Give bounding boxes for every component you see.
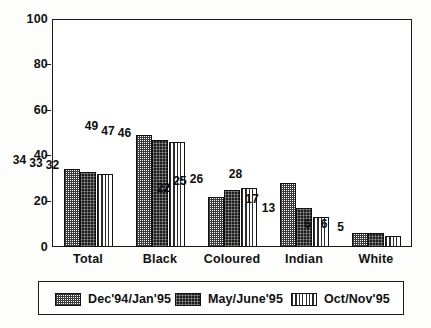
y-axis-tick-label: 100 bbox=[8, 13, 48, 26]
bar bbox=[280, 183, 296, 247]
bar bbox=[352, 233, 368, 247]
bar-group bbox=[280, 19, 329, 247]
legend-swatch bbox=[55, 293, 81, 306]
bar-group bbox=[352, 19, 401, 247]
bar-value-label: 28 bbox=[223, 168, 249, 180]
bar bbox=[169, 142, 185, 247]
y-axis-tick-label: 60 bbox=[8, 104, 48, 117]
bar bbox=[224, 190, 240, 247]
legend-item: May/June'95 bbox=[175, 290, 283, 308]
legend: Dec'94/Jan'95May/June'95Oct/Nov'95 bbox=[38, 281, 404, 315]
bar bbox=[136, 135, 152, 247]
bar bbox=[80, 172, 96, 247]
legend-swatch bbox=[291, 293, 317, 306]
legend-item: Oct/Nov'95 bbox=[291, 290, 390, 308]
y-axis-tick-mark bbox=[45, 110, 51, 111]
y-axis-tick-label: 80 bbox=[8, 58, 48, 71]
bar-value-label: 46 bbox=[112, 127, 138, 139]
legend-label: Oct/Nov'95 bbox=[324, 292, 390, 306]
legend-item: Dec'94/Jan'95 bbox=[55, 290, 171, 308]
legend-swatch bbox=[175, 293, 201, 306]
bar bbox=[208, 197, 224, 247]
bar-value-label: 13 bbox=[256, 202, 282, 214]
y-axis-tick-label: 20 bbox=[8, 195, 48, 208]
bar-value-label: 32 bbox=[40, 159, 66, 171]
x-axis-category-label: White bbox=[326, 252, 426, 266]
bar bbox=[368, 233, 384, 247]
bar bbox=[97, 174, 113, 247]
bar-value-label: 26 bbox=[184, 173, 210, 185]
y-axis-tick-mark bbox=[45, 64, 51, 65]
bar-group bbox=[208, 19, 257, 247]
bar-value-label: 5 bbox=[328, 221, 354, 233]
bar-group bbox=[136, 19, 185, 247]
bar-chart: 100806040200 Dec'94/Jan'95May/June'95Oct… bbox=[0, 0, 431, 328]
bar bbox=[385, 236, 401, 247]
bar bbox=[64, 169, 80, 247]
y-axis-tick-mark bbox=[45, 201, 51, 202]
legend-label: May/June'95 bbox=[208, 292, 283, 306]
legend-label: Dec'94/Jan'95 bbox=[88, 292, 171, 306]
